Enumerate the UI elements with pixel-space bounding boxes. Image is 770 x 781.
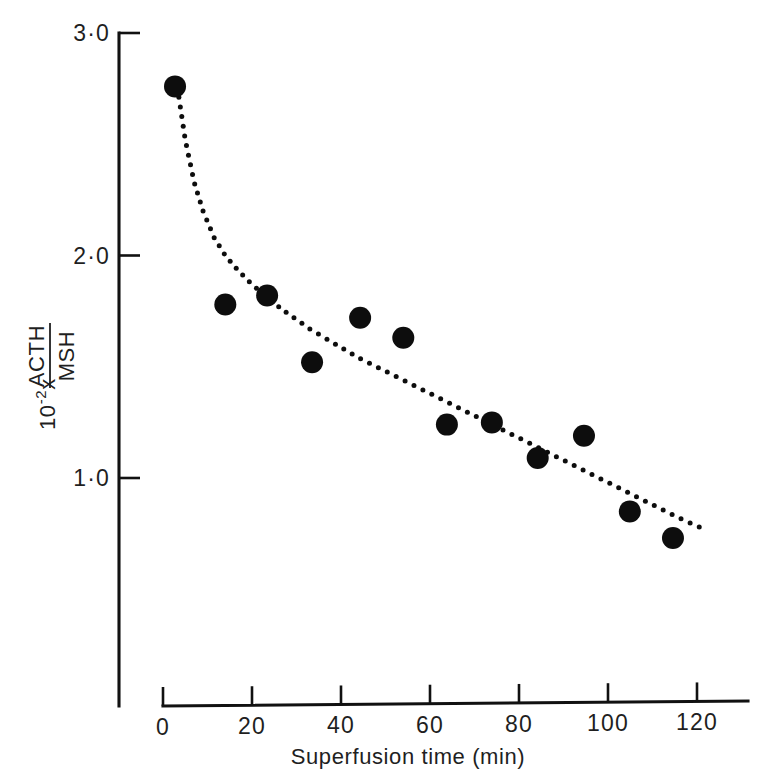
fit-curve-dot xyxy=(376,365,381,370)
fit-curve-dot xyxy=(228,259,233,264)
fit-curve-dot xyxy=(438,396,443,401)
data-point xyxy=(214,293,236,315)
fit-curve-dot xyxy=(324,337,329,342)
fit-curve-dot xyxy=(554,454,559,459)
fit-curve-dot xyxy=(181,124,186,129)
fit-curve-dot xyxy=(688,520,693,525)
fit-curve-dot xyxy=(420,387,425,392)
y-axis-label-numerator: ACTH xyxy=(24,325,49,387)
x-tick-label-3: 60 xyxy=(416,712,444,738)
fitted-trend-curve xyxy=(176,95,701,530)
fit-curve-dot xyxy=(394,374,399,379)
fit-curve-dot xyxy=(616,485,621,490)
data-point xyxy=(573,425,595,447)
fit-curve-dot xyxy=(222,251,227,256)
fit-curve-dot xyxy=(518,436,523,441)
y-tick-label-0: 3·0 xyxy=(73,20,110,46)
chart-figure: 3·02·01·0 020406080100120 10-2x ACTH MSH… xyxy=(0,0,770,781)
data-points-group xyxy=(164,75,684,549)
fit-curve-dot xyxy=(634,494,639,499)
fit-curve-dot xyxy=(581,467,586,472)
fit-curve-dot xyxy=(299,321,304,326)
fit-curve-dot xyxy=(670,512,675,517)
y-axis-ticks: 3·02·01·0 xyxy=(73,20,140,491)
fit-curve-dot xyxy=(661,508,666,513)
y-tick-label-1: 2·0 xyxy=(73,243,110,269)
fit-curve-dot xyxy=(350,351,355,356)
fit-curve-dot xyxy=(204,217,209,222)
x-tick-label-5: 100 xyxy=(587,710,629,736)
fit-curve-dot xyxy=(182,133,187,138)
fit-curve-dot xyxy=(474,414,479,419)
data-point xyxy=(349,307,371,329)
fit-curve-dot xyxy=(212,235,217,240)
x-axis-ticks: 020406080100120 xyxy=(156,682,718,740)
fit-curve-dot xyxy=(276,304,281,309)
data-point xyxy=(662,527,684,549)
fit-curve-dot xyxy=(316,332,321,337)
fit-curve-dot xyxy=(217,243,222,248)
fit-curve-dot xyxy=(679,516,684,521)
data-point xyxy=(527,447,549,469)
fit-curve-dot xyxy=(208,226,213,231)
fit-curve-dot xyxy=(385,370,390,375)
fit-curve-dot xyxy=(652,503,657,508)
fit-curve-dot xyxy=(572,463,577,468)
fit-curve-dot xyxy=(186,153,191,158)
x-tick-label-0: 0 xyxy=(156,714,170,740)
fit-curve-dot xyxy=(625,490,630,495)
y-tick-label-2: 1·0 xyxy=(73,465,110,491)
fit-curve-dot xyxy=(198,199,203,204)
fit-curve-dot xyxy=(201,209,206,214)
fit-curve-dot xyxy=(598,476,603,481)
fit-curve-dot xyxy=(333,342,338,347)
fit-curve-dot xyxy=(284,310,289,315)
fit-curve-dot xyxy=(234,266,239,271)
y-axis-label-base: 10 xyxy=(35,404,60,430)
fit-curve-dot xyxy=(291,315,296,320)
x-tick-label-4: 80 xyxy=(505,711,533,737)
y-axis-title: 10-2x ACTH MSH xyxy=(24,323,79,430)
fit-curve-dot xyxy=(456,405,461,410)
fit-curve-dot xyxy=(247,279,252,284)
fit-curve-dot xyxy=(465,410,470,415)
data-point xyxy=(619,500,641,522)
fit-curve-dot xyxy=(643,499,648,504)
fit-curve-dot xyxy=(607,481,612,486)
scatter-plot: 3·02·01·0 020406080100120 10-2x ACTH MSH… xyxy=(0,0,770,781)
fit-curve-dot xyxy=(341,347,346,352)
x-tick-label-2: 40 xyxy=(327,712,355,738)
y-axis-label-denominator: MSH xyxy=(54,331,79,382)
x-tick-label-6: 120 xyxy=(676,709,718,735)
fit-curve-dot xyxy=(429,392,434,397)
fit-curve-dot xyxy=(403,378,408,383)
fit-curve-dot xyxy=(509,432,514,437)
fit-curve-dot xyxy=(367,361,372,366)
fit-curve-dot xyxy=(563,459,568,464)
x-axis-title: Superfusion time (min) xyxy=(291,744,526,769)
fit-curve-dot xyxy=(190,172,195,177)
data-point xyxy=(392,327,414,349)
fit-curve-dot xyxy=(188,162,193,167)
fit-curve-dot xyxy=(195,190,200,195)
data-point xyxy=(436,414,458,436)
fit-curve-dot xyxy=(178,104,183,109)
fit-curve-dot xyxy=(447,401,452,406)
fit-curve-dot xyxy=(358,356,363,361)
fit-curve-dot xyxy=(192,181,197,186)
fit-curve-dot xyxy=(697,524,702,529)
fit-curve-dot xyxy=(411,383,416,388)
fit-curve-dot xyxy=(307,326,312,331)
y-axis-label-exponent: -2 xyxy=(32,390,49,405)
data-point xyxy=(256,285,278,307)
fit-curve-dot xyxy=(589,472,594,477)
fit-curve-dot xyxy=(527,441,532,446)
data-point xyxy=(301,351,323,373)
data-point xyxy=(164,75,186,97)
fit-curve-dot xyxy=(184,143,189,148)
x-tick-label-1: 20 xyxy=(238,713,266,739)
fit-curve-dot xyxy=(500,427,505,432)
data-point xyxy=(481,411,503,433)
fit-curve-dot xyxy=(240,273,245,278)
fit-curve-dot xyxy=(179,114,184,119)
